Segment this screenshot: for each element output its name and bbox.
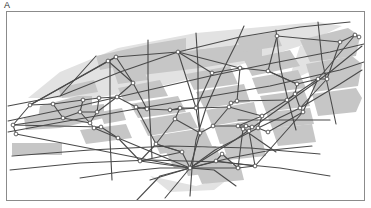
network-node [194,106,198,110]
network-node [298,106,302,110]
network-node [301,110,305,114]
network-node [260,114,264,118]
network-node [236,124,240,128]
network-node [247,129,251,133]
network-node [28,103,32,107]
network-node [115,95,119,99]
network-node [131,81,135,85]
network-node [353,33,357,37]
network-node [61,116,65,120]
network-node [99,125,103,129]
street-network-map [0,0,371,208]
network-node [106,59,110,63]
network-node [338,40,342,44]
network-node [210,71,214,75]
network-node [256,126,260,130]
network-node [168,108,172,112]
network-node [173,117,177,121]
network-node [250,125,254,129]
network-node [266,130,270,134]
network-node [78,110,82,114]
network-node [154,142,158,146]
network-node [14,132,18,136]
network-node [92,126,96,130]
network-node [220,152,224,156]
network-node [295,82,299,86]
network-node [316,77,320,81]
network-node [114,55,118,59]
network-node [241,127,245,131]
network-node [293,92,297,96]
network-node [244,124,248,128]
network-node [134,105,138,109]
network-node [97,96,101,100]
network-node [266,69,270,73]
figure-panel: A [0,0,371,208]
network-node [176,50,180,54]
network-node [275,34,279,38]
network-node [253,164,257,168]
network-node [285,98,289,102]
network-node [145,107,149,111]
network-node [11,123,15,127]
network-node [51,102,55,106]
network-node [236,166,240,170]
network-node [325,77,329,81]
network-node [211,124,215,128]
city-block [312,88,362,116]
network-node [227,105,231,109]
network-node [357,35,361,39]
network-node [81,98,85,102]
network-node [198,131,202,135]
network-node [235,99,239,103]
network-node [88,121,92,125]
network-node [238,66,242,70]
network-node [180,150,184,154]
network-node [95,110,99,114]
network-node [178,106,182,110]
network-node [138,159,142,163]
network-node [116,136,120,140]
network-node [188,166,192,170]
network-node [214,159,218,163]
network-node [229,101,233,105]
